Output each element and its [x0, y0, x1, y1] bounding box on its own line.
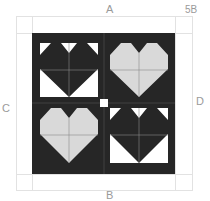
center-square — [100, 99, 108, 107]
block-top-left — [40, 43, 98, 97]
quilt-blocks — [0, 0, 210, 201]
block-bottom-right — [110, 108, 168, 163]
